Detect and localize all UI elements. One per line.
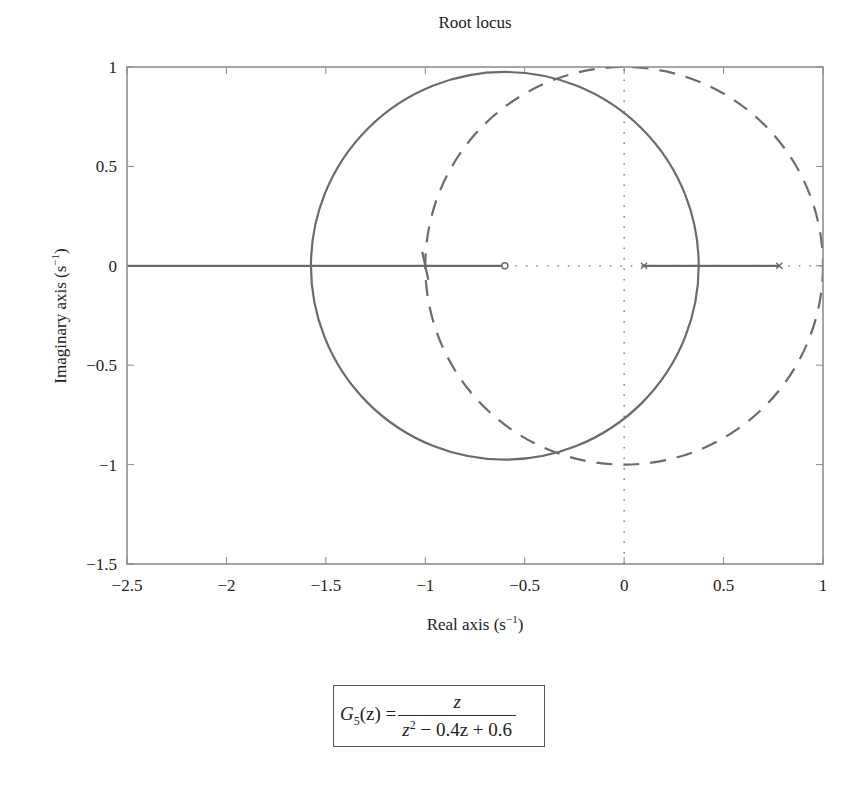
x-tick-label: −1 [416,576,434,595]
x-tick-label: −2 [217,576,235,595]
equation-fraction: z z2 − 0.4z + 0.6 [402,691,512,741]
y-tick-label: −1.5 [86,555,117,574]
plot-frame [127,67,823,564]
y-tick-label: 0 [109,257,118,276]
y-tick-label: 0.5 [96,157,117,176]
x-tick-label: 1 [819,576,828,595]
x-tick-label: −2.5 [112,576,143,595]
chart-title: Root locus [438,13,511,32]
y-tick-label: 1 [109,58,118,77]
y-tick-label: −1 [99,456,117,475]
equation-denominator: z2 − 0.4z + 0.6 [402,716,512,741]
x-tick-label: 0.5 [713,576,734,595]
root-locus-chart: −2.5−2−1.5−1−0.500.5110.50−0.5−1−1.5 Roo… [0,0,868,786]
x-axis-label: Real axis (s−1) [427,613,524,634]
equation-lhs: G5(z) = [340,703,396,729]
x-tick-label: −1.5 [310,576,341,595]
transfer-function-box: G5(z) = z z2 − 0.4z + 0.6 [333,685,545,747]
y-tick-label: −0.5 [86,356,117,375]
x-tick-label: 0 [620,576,629,595]
equation-numerator: z [398,691,516,716]
zero-marker [502,263,508,269]
y-axis-label: Imaginary axis (s−1) [49,248,70,383]
x-tick-label: −0.5 [509,576,540,595]
